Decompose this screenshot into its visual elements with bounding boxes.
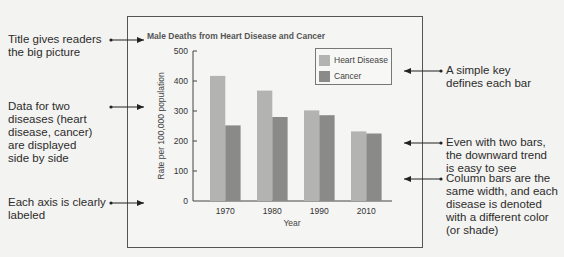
annotation-trend: Even with two bars,the downward trendis … <box>446 136 547 175</box>
x-tick-label: 2010 <box>357 206 376 216</box>
annotation-line: disease is denoted <box>446 198 558 211</box>
y-tick-label: 200 <box>174 136 188 146</box>
annotation-line: A simple key <box>446 64 531 77</box>
callout-arrow-data-arrowhead-icon <box>137 104 144 110</box>
annotation-line: diseases (heart <box>8 113 92 126</box>
callout-arrow-width-arrowhead-icon <box>404 176 411 182</box>
y-axis-label: Rate per 100,000 population <box>156 72 166 180</box>
legend-label-heart-disease: Heart Disease <box>334 55 388 65</box>
annotation-line: Column bars are the <box>446 172 558 185</box>
bar-cancer <box>272 117 287 201</box>
legend-item-heart-disease: Heart Disease <box>319 54 388 66</box>
callout-arrow-title-dot <box>109 38 112 41</box>
annotation-line: are displayed <box>8 139 92 152</box>
annotation-line: defines each bar <box>446 77 531 90</box>
annotation-bar-width: Column bars are thesame width, and eachd… <box>446 172 558 237</box>
annotation-axis: Each axis is clearlylabeled <box>8 196 106 222</box>
annotation-line: (or shade) <box>446 224 558 237</box>
annotation-line: Each axis is clearly <box>8 196 106 209</box>
x-tick-label: 1980 <box>263 206 282 216</box>
y-tick-label: 400 <box>174 76 188 86</box>
heart-disease-swatch <box>319 55 330 66</box>
legend-label-cancer: Cancer <box>334 71 361 81</box>
annotation-line: Data for two <box>8 100 92 113</box>
annotation-line: labeled <box>8 209 106 222</box>
annotation-line: the big picture <box>8 46 102 59</box>
y-tick-label: 500 <box>174 46 188 56</box>
callout-arrow-key-dot <box>439 69 442 72</box>
callout-arrow-trend-dot <box>439 141 442 144</box>
bar-heart-disease <box>351 131 366 201</box>
y-tick-label: 300 <box>174 106 188 116</box>
annotation-line: the downward trend <box>446 149 547 162</box>
legend-item-cancer: Cancer <box>319 70 361 82</box>
callout-arrow-width-dot <box>439 177 442 180</box>
bar-heart-disease <box>304 110 319 201</box>
x-axis-label: Year <box>283 218 300 228</box>
y-tick-label: 100 <box>174 166 188 176</box>
annotation-line: disease, cancer) <box>8 126 92 139</box>
annotation-line: same width, and each <box>446 185 558 198</box>
callout-arrow-data-dot <box>109 105 112 108</box>
bar-cancer <box>319 115 334 201</box>
cancer-swatch <box>319 71 330 82</box>
annotation-key: A simple keydefines each bar <box>446 64 531 90</box>
annotation-line: with a different color <box>446 211 558 224</box>
callout-arrow-axis-arrowhead-icon <box>137 200 144 206</box>
callout-arrow-title-arrowhead-icon <box>137 37 144 43</box>
bar-heart-disease <box>257 91 272 201</box>
annotation-title: Title gives readersthe big picture <box>8 33 102 59</box>
annotation-line: side by side <box>8 152 92 165</box>
callout-arrow-key-arrowhead-icon <box>404 68 411 74</box>
x-tick-label: 1990 <box>310 206 329 216</box>
annotation-line: Title gives readers <box>8 33 102 46</box>
chart-legend: Heart Disease Cancer <box>315 48 392 85</box>
annotation-line: Even with two bars, <box>446 136 547 149</box>
callout-arrow-trend-arrowhead-icon <box>404 140 411 146</box>
callout-arrow-axis-dot <box>109 201 112 204</box>
annotation-data: Data for twodiseases (heartdisease, canc… <box>8 100 92 165</box>
bar-cancer <box>225 125 240 201</box>
x-tick-label: 1970 <box>216 206 235 216</box>
y-tick-label: 0 <box>183 196 188 206</box>
bar-heart-disease <box>210 76 225 201</box>
bar-cancer <box>366 134 381 202</box>
